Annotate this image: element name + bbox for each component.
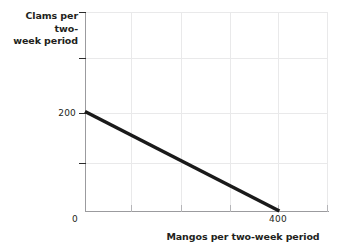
y-axis-label-line-1: Clams per two- (0, 10, 78, 35)
x-axis-tick (230, 205, 231, 212)
x-tick-label-0: 0 (55, 214, 95, 224)
y-axis-line (85, 12, 86, 212)
y-tick-label-200: 200 (38, 108, 76, 118)
y-axis-label-line-2: week period (0, 35, 78, 48)
x-axis-tick (327, 205, 328, 212)
gridline-vertical (181, 12, 182, 211)
x-tick-label-400: 400 (258, 214, 298, 224)
x-axis-line (85, 211, 329, 212)
gridline-horizontal (85, 58, 328, 59)
gridline-horizontal (85, 12, 328, 13)
gridline-horizontal (85, 113, 328, 114)
y-axis-tick (79, 163, 86, 164)
y-axis-tick (79, 58, 86, 59)
gridline-vertical (327, 12, 328, 211)
gridline-horizontal (85, 163, 328, 164)
x-axis-label: Mangos per two-week period (150, 231, 336, 242)
x-axis-tick (131, 205, 132, 212)
gridline-vertical (131, 12, 132, 211)
plot-area (85, 12, 328, 211)
gridline-vertical (230, 12, 231, 211)
x-axis-tick (181, 205, 182, 212)
y-tick-label-200-wrap: 200 (38, 108, 76, 120)
chart-figure: Clams per two- week period 200 0 400 Man… (0, 0, 340, 251)
y-axis-tick (79, 113, 86, 114)
y-axis-tick (79, 12, 86, 13)
y-axis-label: Clams per two- week period (0, 10, 78, 48)
gridline-vertical (278, 12, 279, 211)
x-axis-tick (278, 205, 279, 212)
